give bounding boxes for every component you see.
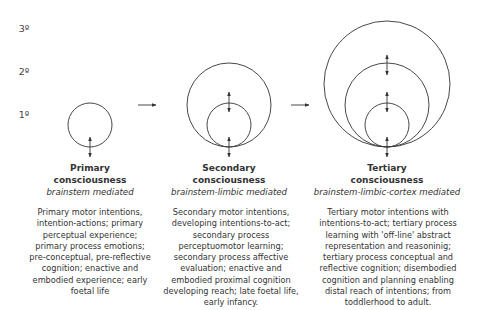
- stage-title: consciousness: [30, 174, 150, 186]
- stage-title: Tertiary: [327, 162, 447, 174]
- stage-title: Secondary: [169, 162, 289, 174]
- stage-mediation: brainstem mediated: [30, 186, 150, 198]
- tertiary-circles: [324, 21, 450, 147]
- tertiary-stage-label: Tertiary consciousness brainstem-limbic-…: [327, 162, 447, 198]
- primary-description: Primary motor intentions, intention-acti…: [26, 207, 154, 297]
- level-label-1: 1º: [14, 109, 34, 120]
- stage-title: Primary: [30, 162, 150, 174]
- stage-title: consciousness: [327, 174, 447, 186]
- stage-mediation: brainstem-limbic-cortex mediated: [287, 186, 482, 198]
- level-label-3: 3º: [14, 23, 34, 34]
- tertiary-description: Tertiary motor intentions with intention…: [310, 207, 466, 309]
- level-label-2: 2º: [14, 66, 34, 77]
- level-3-circle: [324, 21, 450, 147]
- primary-stage-label: Primary consciousness brainstem mediated: [30, 162, 150, 198]
- stage-title: consciousness: [169, 174, 289, 186]
- secondary-stage-label: Secondary consciousness brainstem-limbic…: [169, 162, 289, 198]
- secondary-description: Secondary motor intentions, developing i…: [160, 207, 302, 309]
- stage-mediation: brainstem-limbic mediated: [149, 186, 309, 198]
